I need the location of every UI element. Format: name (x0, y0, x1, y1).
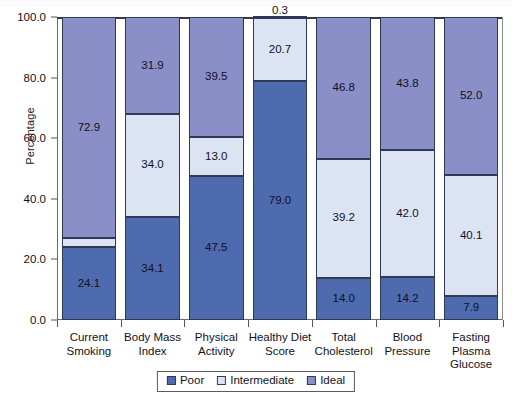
bar-value-label: 47.5 (205, 242, 227, 254)
bar-segment-poor[interactable]: 14.2 (380, 277, 434, 320)
bar-segment-ideal[interactable]: 39.5 (189, 17, 243, 137)
bar-segment-intermediate[interactable]: 39.2 (316, 159, 370, 278)
bar-segment-ideal[interactable]: 31.9 (125, 17, 179, 114)
bar-value-label: 72.9 (78, 122, 100, 134)
bar-group[interactable]: 7.940.152.0 (444, 17, 498, 320)
bar-group[interactable]: 47.513.039.5 (189, 17, 243, 320)
x-tick-mark (57, 320, 58, 327)
legend-label: Poor (180, 375, 204, 387)
y-tick-label: 60.0 (0, 132, 46, 144)
bar-segment-ideal[interactable]: 0.3 (253, 16, 307, 18)
x-label-line: Plasma (439, 345, 503, 359)
x-tick-mark (439, 320, 440, 327)
bar-segment-ideal[interactable]: 46.8 (316, 17, 370, 159)
bar-value-label: 34.1 (141, 263, 163, 275)
bar-value-label: 14.2 (396, 293, 418, 305)
x-label-line: Body Mass (121, 331, 185, 345)
y-tick-label: 40.0 (0, 193, 46, 205)
bar-value-label: 31.9 (141, 60, 163, 72)
legend-swatch-icon (217, 376, 226, 385)
bar-value-label: 39.5 (205, 71, 227, 83)
bar-segment-poor[interactable]: 79.0 (253, 81, 307, 320)
bar-segment-poor[interactable]: 24.1 (62, 247, 116, 320)
bar-value-label: 24.1 (78, 278, 100, 290)
legend-item-ideal[interactable]: Ideal (307, 375, 345, 387)
x-axis-category-label: CurrentSmoking (57, 331, 121, 358)
legend-item-poor[interactable]: Poor (167, 375, 204, 387)
legend-item-intermediate[interactable]: Intermediate (217, 375, 294, 387)
bar-value-label: 42.0 (396, 208, 418, 220)
y-tick-label: 100.0 (0, 11, 46, 23)
bar-segment-intermediate[interactable]: 42.0 (380, 150, 434, 277)
bar-group[interactable]: 14.242.043.8 (380, 17, 434, 320)
x-tick-mark (376, 320, 377, 327)
x-label-line: Cholesterol (312, 345, 376, 359)
x-label-line: Activity (184, 345, 248, 359)
bar-segment-poor[interactable]: 47.5 (189, 176, 243, 320)
bar-value-label: 0.3 (272, 5, 288, 17)
bar-value-label: 7.9 (463, 302, 479, 314)
bar-segment-intermediate[interactable]: 40.1 (444, 175, 498, 297)
legend-label: Ideal (320, 375, 345, 387)
x-label-line: Index (121, 345, 185, 359)
cropped-title-strip (0, 0, 512, 7)
x-axis-category-label: TotalCholesterol (312, 331, 376, 358)
bar-group[interactable]: 24.13.072.9 (62, 17, 116, 320)
x-label-line: Physical (184, 331, 248, 345)
x-label-line: Healthy Diet (248, 331, 312, 345)
chart-legend: PoorIntermediateIdeal (157, 371, 355, 392)
bar-value-label: 20.7 (269, 44, 291, 56)
x-axis-category-label: BloodPressure (376, 331, 440, 358)
x-label-line: Blood (376, 331, 440, 345)
bar-segment-intermediate[interactable]: 34.0 (125, 114, 179, 217)
x-label-line: Pressure (376, 345, 440, 359)
legend-label: Intermediate (230, 375, 294, 387)
bar-value-label: 79.0 (269, 195, 291, 207)
stacked-bar-chart: Percentage 0.020.040.060.080.0100.0 24.1… (0, 0, 512, 400)
bar-value-label: 52.0 (460, 90, 482, 102)
y-tick-label: 0.0 (0, 314, 46, 326)
bar-value-label: 39.2 (333, 212, 355, 224)
bar-value-label: 13.0 (205, 151, 227, 163)
bar-group[interactable]: 14.039.246.8 (316, 17, 370, 320)
bar-segment-intermediate[interactable]: 3.0 (62, 238, 116, 247)
x-tick-mark (503, 320, 504, 327)
bar-segment-poor[interactable]: 7.9 (444, 296, 498, 320)
bar-segment-poor[interactable]: 14.0 (316, 278, 370, 320)
x-axis-category-label: Body MassIndex (121, 331, 185, 358)
bar-value-label: 40.1 (460, 230, 482, 242)
x-label-line: Fasting (439, 331, 503, 345)
x-label-line: Glucose (439, 358, 503, 372)
bar-segment-intermediate[interactable]: 20.7 (253, 18, 307, 81)
x-tick-mark (184, 320, 185, 327)
legend-swatch-icon (167, 376, 176, 385)
bar-group[interactable]: 34.134.031.9 (125, 17, 179, 320)
bar-value-label: 46.8 (333, 82, 355, 94)
x-tick-mark (248, 320, 249, 327)
x-label-line: Total (312, 331, 376, 345)
x-axis-category-label: Healthy DietScore (248, 331, 312, 358)
bar-segment-ideal[interactable]: 52.0 (444, 17, 498, 175)
bar-segment-intermediate[interactable]: 13.0 (189, 137, 243, 176)
bar-segment-poor[interactable]: 34.1 (125, 217, 179, 320)
legend-swatch-icon (307, 376, 316, 385)
x-label-line: Score (248, 345, 312, 359)
bar-value-label: 34.0 (141, 159, 163, 171)
y-tick-label: 80.0 (0, 72, 46, 84)
bar-segment-ideal[interactable]: 43.8 (380, 17, 434, 150)
bar-value-label: 14.0 (333, 293, 355, 305)
y-tick-label: 20.0 (0, 253, 46, 265)
x-label-line: Current (57, 331, 121, 345)
bars-layer: 24.13.072.934.134.031.947.513.039.579.02… (57, 17, 503, 320)
x-axis-category-label: PhysicalActivity (184, 331, 248, 358)
bar-segment-ideal[interactable]: 72.9 (62, 17, 116, 238)
x-label-line: Smoking (57, 345, 121, 359)
x-axis-category-label: FastingPlasmaGlucose (439, 331, 503, 372)
bar-group[interactable]: 79.020.70.3 (253, 17, 307, 320)
x-tick-mark (121, 320, 122, 327)
x-tick-mark (312, 320, 313, 327)
bar-value-label: 43.8 (396, 78, 418, 90)
